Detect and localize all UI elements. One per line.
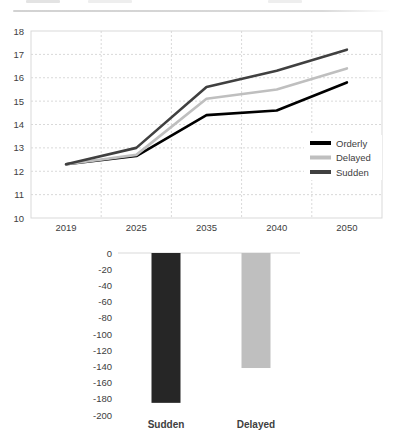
legend-label-delayed: Delayed	[336, 152, 371, 163]
y-axis-tick-label: -60	[98, 296, 112, 307]
line-chart: 10111213141516171820192025203520402050Or…	[13, 26, 382, 234]
clipped-header-text-fragment	[88, 0, 132, 3]
y-axis-tick-label: 14	[13, 119, 24, 130]
y-axis-tick-label: -120	[93, 345, 112, 356]
bar-sudden	[152, 253, 181, 403]
x-axis-category-label: Delayed	[237, 419, 275, 430]
y-axis-tick-label: 10	[13, 213, 24, 224]
x-axis-tick-label: 2019	[56, 222, 77, 233]
clipped-header-text-fragment	[26, 0, 60, 3]
y-axis-tick-label: 17	[13, 49, 24, 60]
bar-chart: 0-20-40-60-80-100-120-140-160-180-200Sud…	[93, 248, 300, 431]
header-divider	[13, 10, 391, 12]
x-axis-tick-label: 2035	[196, 222, 217, 233]
y-axis-tick-label: -140	[93, 361, 112, 372]
y-axis-tick-label: 11	[14, 189, 24, 200]
legend-label-sudden: Sudden	[336, 167, 369, 178]
y-axis-tick-label: -20	[98, 264, 112, 275]
y-axis-tick-label: 0	[107, 248, 112, 259]
x-axis-category-label: Sudden	[148, 419, 185, 430]
bar-delayed	[242, 253, 271, 368]
x-axis-tick-label: 2025	[126, 222, 147, 233]
y-axis-tick-label: 12	[13, 166, 24, 177]
charts-figure: 10111213141516171820192025203520402050Or…	[0, 0, 397, 444]
y-axis-tick-label: -80	[98, 312, 112, 323]
y-axis-tick-label: 15	[13, 96, 24, 107]
y-axis-tick-label: 18	[13, 26, 24, 37]
y-axis-tick-label: -100	[93, 329, 112, 340]
y-axis-tick-label: 16	[13, 72, 24, 83]
legend-label-orderly: Orderly	[336, 138, 367, 149]
x-axis-tick-label: 2040	[266, 222, 287, 233]
page: 10111213141516171820192025203520402050Or…	[0, 0, 397, 444]
clipped-header-text-fragment	[268, 0, 302, 3]
y-axis-tick-label: -160	[93, 377, 112, 388]
y-axis-tick-label: -200	[93, 410, 112, 421]
x-axis-tick-label: 2050	[336, 222, 357, 233]
y-axis-tick-label: -40	[98, 280, 112, 291]
y-axis-tick-label: 13	[13, 142, 24, 153]
y-axis-tick-label: -180	[93, 393, 112, 404]
